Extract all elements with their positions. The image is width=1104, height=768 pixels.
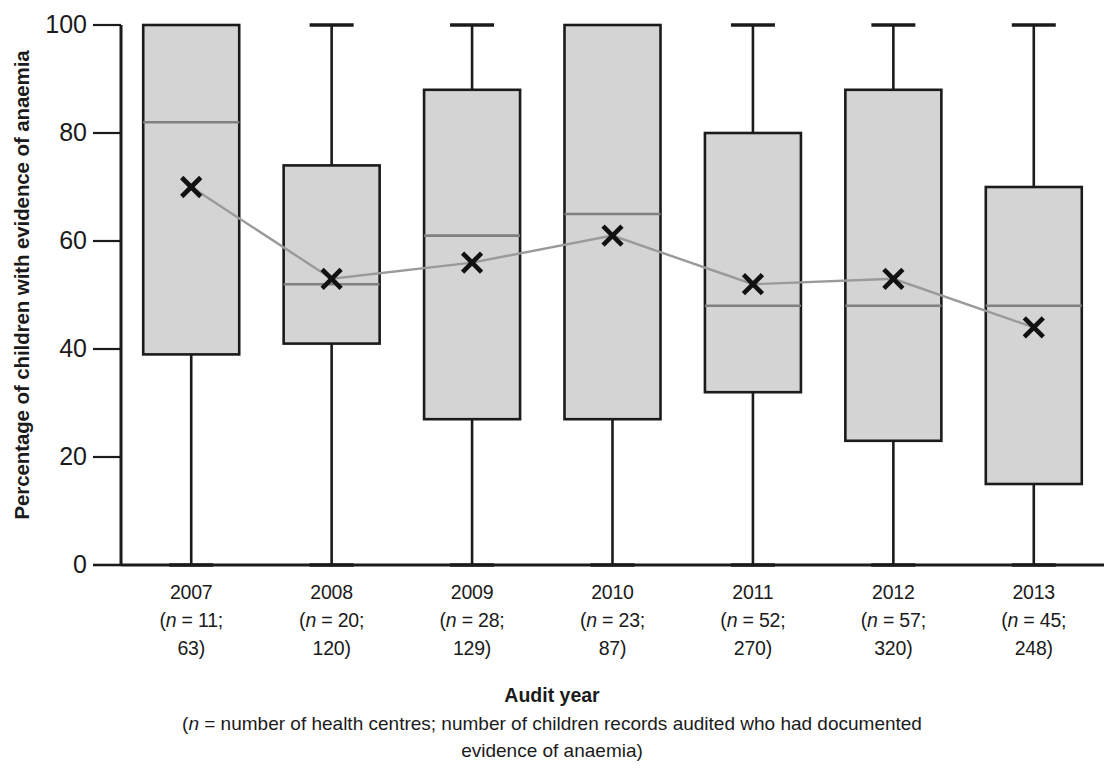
x-tick-n-italic: n — [867, 609, 878, 631]
box-iqr — [986, 187, 1082, 484]
y-tick-label: 0 — [73, 550, 87, 578]
box-plot-2007 — [143, 25, 239, 565]
box-iqr — [705, 133, 801, 392]
box-plot-2011 — [705, 25, 801, 565]
x-tick-n-centres: (n = 28; — [402, 606, 542, 634]
x-tick-n-value: = 52; — [737, 609, 785, 631]
box-plot-2012 — [845, 25, 941, 565]
y-tick-label: 60 — [59, 226, 87, 254]
y-axis: 020406080100 — [45, 10, 121, 578]
x-tick-label-group: 2010(n = 23;87) — [542, 578, 682, 662]
x-tick-n-centres: (n = 20; — [261, 606, 401, 634]
caption-n-italic: n — [188, 713, 199, 734]
y-tick-label: 20 — [59, 442, 87, 470]
x-tick-year: 2012 — [823, 578, 963, 606]
x-axis-caption: (n = number of health centres; number of… — [0, 710, 1104, 764]
x-tick-n-records: 120) — [261, 634, 401, 662]
box-iqr — [284, 165, 380, 343]
y-tick-label: 40 — [59, 334, 87, 362]
x-tick-n-centres: (n = 23; — [542, 606, 682, 634]
x-tick-n-italic: n — [1007, 609, 1018, 631]
x-tick-n-records: 320) — [823, 634, 963, 662]
x-tick-label-group: 2009(n = 28;129) — [402, 578, 542, 662]
box-plot-2013 — [986, 25, 1082, 565]
x-tick-label-group: 2011(n = 52;270) — [683, 578, 823, 662]
x-tick-n-value: = 23; — [597, 609, 645, 631]
x-tick-label-group: 2013(n = 45;248) — [964, 578, 1104, 662]
box-plot-2009 — [424, 25, 520, 565]
x-tick-year: 2013 — [964, 578, 1104, 606]
box-iqr — [845, 90, 941, 441]
x-tick-n-italic: n — [305, 609, 316, 631]
x-tick-label-group: 2008(n = 20;120) — [261, 578, 401, 662]
x-tick-n-value: = 28; — [456, 609, 504, 631]
x-tick-n-italic: n — [727, 609, 738, 631]
x-tick-year: 2008 — [261, 578, 401, 606]
x-tick-n-italic: n — [586, 609, 597, 631]
x-tick-n-records: 270) — [683, 634, 823, 662]
x-axis-title: Audit year — [0, 684, 1104, 707]
x-tick-n-centres: (n = 45; — [964, 606, 1104, 634]
x-tick-n-value: = 20; — [316, 609, 364, 631]
box-iqr — [424, 90, 520, 419]
x-tick-n-italic: n — [166, 609, 177, 631]
x-tick-n-italic: n — [446, 609, 457, 631]
x-tick-n-centres: (n = 57; — [823, 606, 963, 634]
x-axis-caption-line1: (n = number of health centres; number of… — [0, 710, 1104, 737]
x-tick-label-group: 2007(n = 11;63) — [121, 578, 261, 662]
plot-area: 020406080100 — [0, 0, 1104, 578]
y-tick-label: 80 — [59, 118, 87, 146]
x-tick-n-value: = 45; — [1018, 609, 1066, 631]
x-tick-label-group: 2012(n = 57;320) — [823, 578, 963, 662]
x-tick-n-records: 248) — [964, 634, 1104, 662]
box-plot-2010 — [565, 25, 661, 565]
x-tick-n-records: 87) — [542, 634, 682, 662]
x-tick-n-records: 63) — [121, 634, 261, 662]
x-tick-year: 2009 — [402, 578, 542, 606]
x-tick-year: 2007 — [121, 578, 261, 606]
x-tick-n-centres: (n = 11; — [121, 606, 261, 634]
x-tick-n-centres: (n = 52; — [683, 606, 823, 634]
box-iqr — [565, 25, 661, 419]
x-tick-n-value: = 57; — [878, 609, 926, 631]
y-tick-label: 100 — [45, 10, 87, 38]
boxplot-figure: Percentage of children with evidence of … — [0, 0, 1104, 768]
x-tick-year: 2011 — [683, 578, 823, 606]
x-tick-n-records: 129) — [402, 634, 542, 662]
box-plot-2008 — [284, 25, 380, 565]
x-axis-caption-line2: evidence of anaemia) — [0, 737, 1104, 764]
caption-rest: = number of health centres; number of ch… — [199, 713, 922, 734]
x-tick-n-value: = 11; — [176, 609, 223, 631]
x-axis-tick-labels: 2007(n = 11;63)2008(n = 20;120)2009(n = … — [121, 578, 1104, 662]
x-tick-year: 2010 — [542, 578, 682, 606]
